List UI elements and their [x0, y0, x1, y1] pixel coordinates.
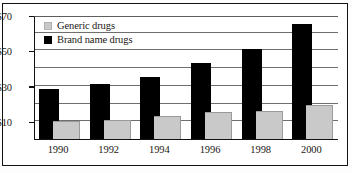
- chart-legend: Generic drugsBrand name drugs: [44, 19, 132, 47]
- bar-generic-drugs: [154, 116, 181, 139]
- legend-item: Brand name drugs: [44, 33, 132, 46]
- bar-generic-drugs: [306, 105, 333, 139]
- bar-group: [140, 17, 191, 139]
- x-axis-tick-label: 1990: [30, 144, 86, 155]
- x-axis-tick-label: 2000: [283, 144, 339, 155]
- x-axis-tick-label: 1994: [131, 144, 187, 155]
- y-axis-tick-label: $10: [0, 117, 12, 128]
- bar-generic-drugs: [53, 121, 80, 139]
- bar-generic-drugs: [256, 111, 283, 139]
- bar-generic-drugs: [205, 112, 232, 139]
- legend-swatch-brand: [44, 36, 52, 44]
- bar-generic-drugs: [104, 120, 131, 139]
- y-axis-tick-label: $50: [0, 46, 12, 57]
- x-axis-tick-label: 1996: [182, 144, 238, 155]
- chart-figure: $10$30$50$70 199019921994199619982000 Ge…: [0, 0, 352, 173]
- legend-label: Brand name drugs: [57, 34, 132, 45]
- x-axis-tick-label: 1998: [233, 144, 289, 155]
- legend-item: Generic drugs: [44, 19, 132, 32]
- bar-group: [242, 17, 293, 139]
- x-axis-tick-label: 1992: [81, 144, 137, 155]
- legend-label: Generic drugs: [57, 20, 115, 31]
- y-axis-tick-label: $70: [0, 11, 12, 22]
- legend-swatch-generic: [44, 22, 52, 30]
- bar-group: [191, 17, 242, 139]
- bar-group: [292, 17, 343, 139]
- y-axis-tick-label: $30: [0, 81, 12, 92]
